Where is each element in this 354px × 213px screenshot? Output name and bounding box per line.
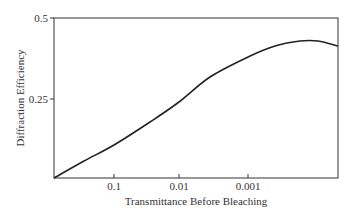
y-tick-label-0.25: 0.25: [29, 93, 49, 105]
y-axis-title: Diffraction Efficiency: [14, 49, 26, 147]
x-tick-label-0.01: 0.01: [169, 180, 188, 192]
chart: 0.5 0.25 0.1 0.01 0.001 Transmittance Be…: [0, 0, 354, 213]
x-tick-label-0.1: 0.1: [107, 180, 121, 192]
x-tick-label-0.001: 0.001: [236, 180, 261, 192]
x-axis-title: Transmittance Before Bleaching: [125, 195, 268, 207]
y-tick-label-0.5: 0.5: [34, 12, 48, 24]
data-curve: [54, 40, 338, 178]
